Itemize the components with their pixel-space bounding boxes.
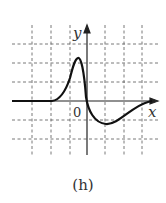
curve xyxy=(12,58,152,124)
y-label: y xyxy=(72,24,82,42)
x-label: x xyxy=(148,103,157,121)
y-axis-arrow-icon xyxy=(84,25,90,33)
figure-caption: (h) xyxy=(0,176,166,194)
function-graph: y x 0 xyxy=(0,0,166,203)
origin-label: 0 xyxy=(73,105,81,120)
